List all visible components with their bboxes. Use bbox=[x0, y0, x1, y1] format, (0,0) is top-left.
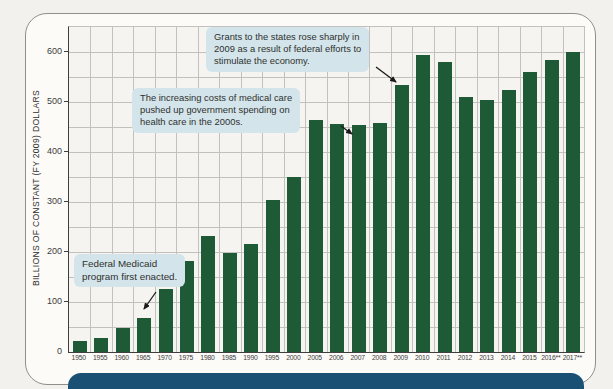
bar-1965 bbox=[137, 318, 151, 352]
y-tick-mark bbox=[64, 201, 68, 203]
bar-2007 bbox=[352, 125, 366, 353]
bar-2011 bbox=[438, 62, 452, 352]
annotation-medicaid: Federal Medicaid program first enacted. bbox=[74, 254, 185, 287]
bar-1970 bbox=[159, 289, 173, 353]
bar-2000 bbox=[287, 177, 301, 352]
bar-1980 bbox=[201, 236, 215, 352]
gridline-vertical bbox=[434, 27, 435, 352]
x-tick-label: 2017** bbox=[556, 354, 588, 361]
y-tick-label: 200 bbox=[28, 246, 62, 256]
y-tick-label: 100 bbox=[28, 296, 62, 306]
gridline-vertical bbox=[563, 27, 564, 352]
gridline-vertical bbox=[176, 27, 177, 352]
plot-area bbox=[68, 26, 585, 353]
bar-2006 bbox=[330, 124, 344, 353]
gridline-vertical bbox=[262, 27, 263, 352]
bar-2005 bbox=[309, 120, 323, 353]
bar-2008 bbox=[373, 123, 387, 353]
bar-2014 bbox=[502, 90, 516, 353]
gridline-vertical bbox=[284, 27, 285, 352]
gridline-vertical bbox=[90, 27, 91, 352]
y-tick-mark bbox=[64, 101, 68, 103]
gridline-vertical bbox=[327, 27, 328, 352]
bottom-banner bbox=[68, 373, 584, 389]
gridline-vertical bbox=[241, 27, 242, 352]
y-tick-label: 500 bbox=[28, 96, 62, 106]
bar-1990 bbox=[244, 244, 258, 353]
gridline-vertical bbox=[155, 27, 156, 352]
gridline-vertical bbox=[541, 27, 542, 352]
y-tick-label: 400 bbox=[28, 146, 62, 156]
figure: BILLIONS OF CONSTANT (FY 2009) DOLLARS F… bbox=[0, 0, 613, 389]
y-tick-label: 0 bbox=[28, 346, 62, 356]
y-tick-label: 600 bbox=[28, 46, 62, 56]
y-tick-mark bbox=[64, 151, 68, 153]
gridline-vertical bbox=[455, 27, 456, 352]
annotation-grants-2009: Grants to the states rose sharply in 200… bbox=[206, 27, 369, 72]
bar-1985 bbox=[223, 253, 237, 352]
bar-2016 bbox=[545, 60, 559, 353]
gridline-vertical bbox=[520, 27, 521, 352]
bar-2009 bbox=[395, 85, 409, 353]
gridline-vertical bbox=[305, 27, 306, 352]
gridline-vertical bbox=[133, 27, 134, 352]
gridline-vertical bbox=[391, 27, 392, 352]
gridline-vertical bbox=[498, 27, 499, 352]
bar-2017 bbox=[566, 52, 580, 352]
annotation-medical-costs: The increasing costs of medical care pus… bbox=[132, 88, 300, 133]
y-tick-mark bbox=[64, 301, 68, 303]
bar-2010 bbox=[416, 55, 430, 353]
gridline-vertical bbox=[369, 27, 370, 352]
bar-1995 bbox=[266, 200, 280, 353]
bar-1955 bbox=[94, 338, 108, 353]
gridline-vertical bbox=[412, 27, 413, 352]
y-tick-mark bbox=[64, 251, 68, 253]
gridline-vertical bbox=[348, 27, 349, 352]
bar-2015 bbox=[523, 72, 537, 352]
gridline-vertical bbox=[198, 27, 199, 352]
gridline-vertical bbox=[477, 27, 478, 352]
bar-2013 bbox=[480, 100, 494, 353]
bar-1960 bbox=[116, 328, 130, 353]
bar-2012 bbox=[459, 97, 473, 352]
y-tick-mark bbox=[64, 51, 68, 53]
y-axis-title: BILLIONS OF CONSTANT (FY 2009) DOLLARS bbox=[31, 90, 42, 286]
gridline-vertical bbox=[112, 27, 113, 352]
bar-1950 bbox=[73, 341, 87, 352]
y-tick-label: 300 bbox=[28, 196, 62, 206]
gridline-vertical bbox=[219, 27, 220, 352]
